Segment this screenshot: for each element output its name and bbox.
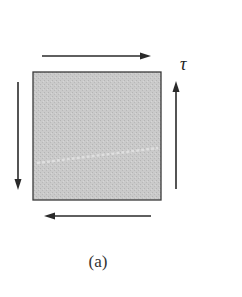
left-shear-arrow xyxy=(15,82,22,190)
figure-caption: (a) xyxy=(84,252,112,272)
shear-stress-label: τ xyxy=(180,54,186,75)
shear-stress-element-diagram xyxy=(0,0,242,297)
bottom-shear-arrow xyxy=(44,213,151,220)
right-shear-arrow xyxy=(173,81,180,189)
top-shear-arrow xyxy=(42,53,151,60)
stress-element-square xyxy=(33,72,161,200)
